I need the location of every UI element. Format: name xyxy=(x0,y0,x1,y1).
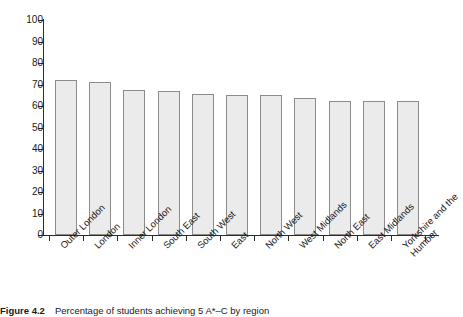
bar xyxy=(55,80,77,235)
x-tick-mark xyxy=(357,236,358,241)
x-tick-mark xyxy=(186,236,187,241)
y-tick-label: 90 xyxy=(11,37,43,47)
x-tick-mark xyxy=(152,236,153,241)
y-axis-line xyxy=(43,19,44,236)
x-tick-mark xyxy=(83,236,84,241)
caption-text: Percentage of students achieving 5 A*–C … xyxy=(55,305,269,316)
x-tick-mark xyxy=(288,236,289,241)
x-tick-mark xyxy=(323,236,324,241)
bar xyxy=(260,95,282,235)
y-tick-label-row: 80 xyxy=(0,58,43,68)
y-tick-label: 10 xyxy=(11,209,43,219)
y-tick-label-row: 0 xyxy=(0,230,43,240)
y-tick-label-row: 100 xyxy=(0,15,43,25)
x-tick-mark xyxy=(220,236,221,241)
y-tick-label-row: 20 xyxy=(0,187,43,197)
bar xyxy=(123,90,145,235)
y-tick-label-row: 60 xyxy=(0,101,43,111)
y-tick-label-row: 70 xyxy=(0,80,43,90)
y-tick-label: 30 xyxy=(11,166,43,176)
x-tick-mark xyxy=(49,236,50,241)
x-tick-mark xyxy=(117,236,118,241)
y-tick-label: 80 xyxy=(11,58,43,68)
y-tick-label-row: 90 xyxy=(0,37,43,47)
y-tick-label-row: 10 xyxy=(0,209,43,219)
x-tick-mark xyxy=(391,236,392,241)
caption-label: Figure 4.2 xyxy=(0,305,45,316)
y-tick-label: 20 xyxy=(11,187,43,197)
x-tick-mark xyxy=(254,236,255,241)
y-tick-label: 50 xyxy=(11,123,43,133)
y-tick-label: 60 xyxy=(11,101,43,111)
y-tick-label: 0 xyxy=(11,230,43,240)
y-tick-label-row: 30 xyxy=(0,166,43,176)
y-tick-label: 70 xyxy=(11,80,43,90)
y-tick-label-row: 50 xyxy=(0,123,43,133)
y-tick-label: 100 xyxy=(11,15,43,25)
figure-caption: Figure 4.2Percentage of students achievi… xyxy=(0,305,456,317)
y-tick-label: 40 xyxy=(11,144,43,154)
y-tick-label-row: 40 xyxy=(0,144,43,154)
